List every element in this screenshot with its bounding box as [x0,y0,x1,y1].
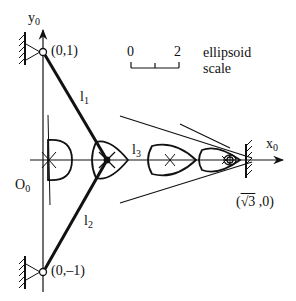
scale-caption-line1: ellipsoid [203,45,251,61]
ellipsoid-scale-bar [131,62,179,68]
ellipsoid-5 [224,155,236,165]
scale-caption: ellipsoid scale [203,45,251,77]
bottom-pivot-label: (0,–1) [51,264,85,278]
link-l3-label: l3 [132,143,141,159]
origin-label: O0 [15,178,30,194]
link-l1-label: l1 [80,90,89,106]
scale-start-label: 0 [127,45,134,59]
x-axis-label: x0 [266,137,278,153]
right-wall-label: (√3 ,0) [236,195,274,209]
link-l2-label: l2 [84,214,93,230]
top-pivot-label: (0,1) [51,44,78,58]
scale-end-label: 2 [174,45,181,59]
scale-caption-line2: scale [203,61,251,77]
link-l1 [45,55,107,160]
y-axis-label: y0 [28,11,40,27]
manipulability-ellipsoid-diagram [0,0,296,301]
right-wall [246,140,252,178]
top-wall-pivot [19,32,47,65]
link-l2 [45,160,107,269]
bottom-wall-pivot [19,256,47,289]
